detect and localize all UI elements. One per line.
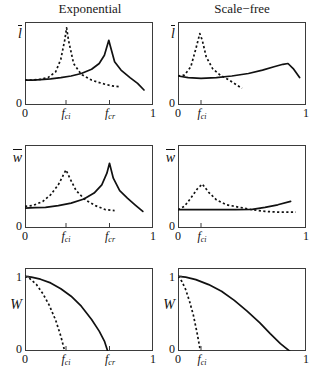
curve-solid (25, 40, 144, 90)
plot-curves-scalefree-l (178, 22, 306, 105)
chart-panel-scalefree-w (178, 145, 306, 228)
ylabel-row-3-right: W (155, 297, 175, 313)
xtick-0-panel-scalefree-W: 0 (170, 352, 186, 367)
ylabel-row-2: w (2, 150, 22, 166)
xtick-fcr-panel-exponential-l: fcr (99, 106, 121, 121)
xtick-1-panel-scalefree-w: 1 (298, 229, 314, 244)
xtick-1-panel-scalefree-l: 1 (298, 106, 314, 121)
ylabel-row-3: W (2, 297, 22, 313)
figure-panel-grid: Exponential Scale−free l 0 0 fci fcr 1 l… (0, 0, 320, 386)
xtick-fci-panel-scalefree-W: fci (191, 352, 213, 367)
ylabel-row-1-right: l (155, 26, 175, 42)
xtick-0-panel-exponential-w: 0 (17, 229, 33, 244)
xtick-0-panel-scalefree-l: 0 (170, 106, 186, 121)
curve-solid (25, 163, 143, 211)
curve-solid (178, 201, 291, 209)
curve-solid (25, 276, 153, 351)
xtick-1-panel-scalefree-W: 1 (298, 352, 314, 367)
chart-panel-scalefree-l (178, 22, 306, 105)
curve-dashed (25, 170, 115, 211)
ytick-1-panel-exponential-W: 1 (4, 270, 22, 285)
curve-dashed (178, 34, 242, 89)
xtick-fci-panel-scalefree-l: fci (191, 106, 213, 121)
xtick-0-panel-exponential-W: 0 (17, 352, 33, 367)
xtick-fcr-panel-exponential-W: fcr (99, 352, 121, 367)
ytick-1-panel-scalefree-W: 1 (157, 270, 175, 285)
curve-solid (178, 64, 300, 79)
xtick-0-panel-exponential-l: 0 (17, 106, 33, 121)
ylabel-row-1: l (2, 26, 22, 42)
plot-curves-exponential-w (25, 145, 153, 228)
curve-dashed (178, 276, 306, 351)
chart-panel-exponential-l (25, 22, 153, 105)
plot-curves-scalefree-w (178, 145, 306, 228)
xtick-fci-panel-exponential-W: fci (55, 352, 77, 367)
chart-panel-scalefree-W (178, 268, 306, 351)
xtick-0-panel-scalefree-w: 0 (170, 229, 186, 244)
column-title-exponential: Exponential (25, 1, 155, 17)
chart-panel-exponential-W (25, 268, 153, 351)
xtick-fci-panel-scalefree-w: fci (191, 229, 213, 244)
curve-dashed (25, 276, 153, 351)
curve-solid (178, 276, 306, 351)
xtick-fci-panel-exponential-w: fci (55, 229, 77, 244)
xtick-fcr-panel-exponential-w: fcr (99, 229, 121, 244)
plot-curves-exponential-W (25, 268, 153, 351)
curve-dashed (178, 184, 296, 212)
plot-curves-exponential-l (25, 22, 153, 105)
ylabel-row-2-right: w (155, 150, 175, 166)
curve-dashed (25, 28, 120, 87)
chart-panel-exponential-w (25, 145, 153, 228)
column-title-scale-free: Scale−free (178, 1, 306, 17)
xtick-fci-panel-exponential-l: fci (55, 106, 77, 121)
plot-curves-scalefree-W (178, 268, 306, 351)
